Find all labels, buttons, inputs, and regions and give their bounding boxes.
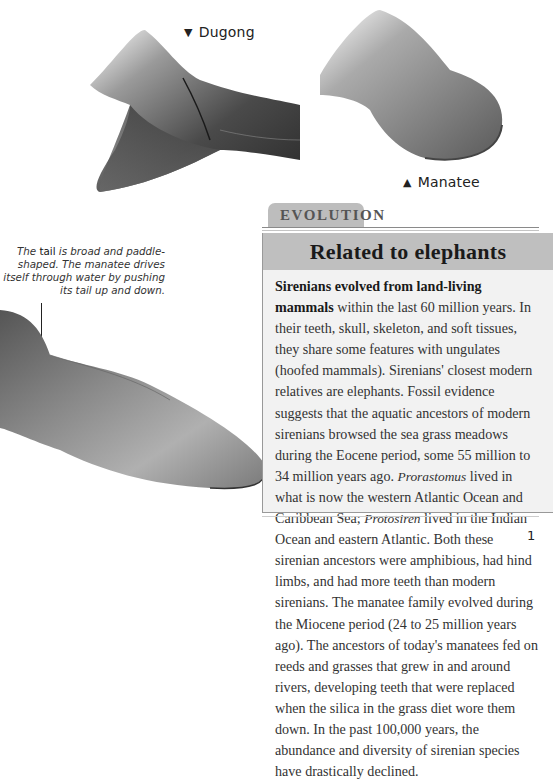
page-number: 1 — [527, 528, 535, 543]
section-tab-label: EVOLUTION — [268, 203, 364, 224]
manatee-label: ▲Manatee — [403, 174, 480, 190]
bottom-rule — [262, 516, 539, 517]
dugong-label-text: Dugong — [199, 24, 255, 40]
dugong-label: ▼Dugong — [184, 24, 255, 40]
body-part-3: lived in the Indian Ocean and eastern At… — [275, 510, 538, 779]
manatee-tail-closeup-illustration — [0, 300, 275, 515]
body-part-1: within the last 60 million years. In the… — [275, 299, 532, 484]
up-triangle-icon: ▲ — [403, 176, 412, 189]
dugong-tail-illustration — [0, 0, 300, 200]
down-triangle-icon: ▼ — [184, 26, 193, 39]
tab-divider — [262, 227, 539, 228]
body-genus-prorastomus: Prorastomus — [398, 469, 467, 484]
section-tab: EVOLUTION — [268, 203, 364, 227]
tab-divider-light — [262, 230, 539, 231]
box-heading-bar: Related to elephants — [263, 233, 553, 270]
evolution-sidebar-box: Related to elephants Sirenians evolved f… — [262, 233, 553, 513]
manatee-label-text: Manatee — [418, 174, 480, 190]
annotation-term: tail — [39, 245, 55, 257]
annotation-lead: The — [17, 245, 36, 257]
manatee-tail-illustration — [320, 0, 539, 170]
box-body-text: Sirenians evolved from land-living mamma… — [263, 270, 550, 782]
box-heading: Related to elephants — [310, 239, 507, 264]
tail-annotation: The tail is broad and paddle-shaped. The… — [0, 245, 165, 297]
body-genus-protosiren: Protosiren — [364, 511, 420, 526]
